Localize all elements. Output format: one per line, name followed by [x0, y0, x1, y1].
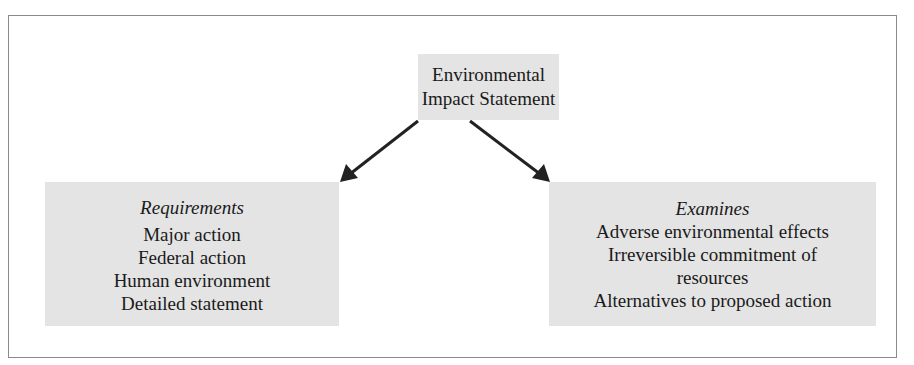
arrow-left	[340, 121, 418, 182]
examines-heading: Examines	[549, 197, 876, 220]
requirements-heading: Requirements	[45, 196, 339, 219]
requirements-box: Requirements Major action Federal action…	[45, 182, 339, 326]
eis-box: Environmental Impact Statement	[418, 54, 559, 120]
eis-title-line-1: Environmental	[418, 63, 559, 87]
arrow-right	[470, 121, 550, 182]
examines-item: Alternatives to proposed action	[549, 289, 876, 312]
requirement-item: Major action	[45, 223, 339, 246]
examines-box: Examines Adverse environmental effects I…	[549, 182, 876, 326]
eis-title-line-2: Impact Statement	[418, 87, 559, 111]
requirement-item: Detailed statement	[45, 292, 339, 315]
examines-item: Irreversible commitment of	[549, 243, 876, 266]
requirement-item: Human environment	[45, 269, 339, 292]
requirement-item: Federal action	[45, 246, 339, 269]
examines-item: Adverse environmental effects	[549, 220, 876, 243]
examines-item: resources	[549, 266, 876, 289]
